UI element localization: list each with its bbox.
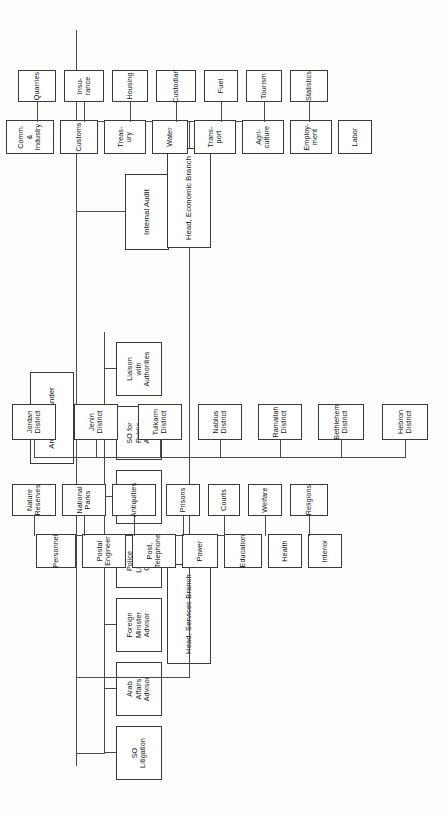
- economic-secondary-box: Housing: [112, 70, 148, 102]
- staff-box: Liaison with Authorities: [116, 342, 162, 396]
- economic-secondary-box: Fuel: [204, 70, 238, 102]
- node-internal-audit: Internal Audit: [125, 174, 169, 250]
- chart-sheet: Area CommanderInternal AuditHead, Servic…: [0, 0, 446, 816]
- staff-box: SO Litigation: [116, 726, 162, 780]
- services-secondary-connector: [84, 516, 85, 536]
- services-primary-box: Personnel: [36, 534, 76, 568]
- services-primary-box: Power: [182, 534, 218, 568]
- district-connector: [220, 440, 221, 458]
- district-box: Ramallah District: [258, 404, 302, 440]
- economic-secondary-connector: [130, 102, 131, 122]
- services-secondary-box: Antiquities: [112, 484, 156, 516]
- economic-secondary-box: Insu- rance: [64, 70, 104, 102]
- branch-riser: [76, 677, 189, 678]
- staff-box: Arab Affairs Advisor: [116, 662, 162, 716]
- economic-primary-box: Agri- culture: [242, 120, 284, 154]
- district-box: Jordan District: [12, 404, 56, 440]
- economic-secondary-connector: [37, 102, 38, 122]
- services-secondary-box: Religions: [290, 484, 328, 516]
- district-connector: [341, 440, 342, 458]
- services-secondary-connector: [134, 516, 135, 536]
- district-box: Bethlehem District: [318, 404, 364, 440]
- staff-box: Foreign Minister Advisor: [116, 598, 162, 652]
- district-connector: [405, 440, 406, 458]
- economic-secondary-box: Tourism: [246, 70, 282, 102]
- economic-secondary-connector: [176, 102, 177, 122]
- node-head-economic-branch: Head, Economic Branch: [167, 148, 211, 248]
- services-primary-box: Education: [224, 534, 262, 568]
- economic-secondary-box: Statistics: [290, 70, 328, 102]
- staff-stem: [104, 752, 116, 753]
- district-connector: [280, 440, 281, 458]
- district-box: Jenin District: [74, 404, 118, 440]
- economic-secondary-connector: [221, 102, 222, 122]
- services-secondary-connector: [309, 516, 310, 536]
- services-secondary-connector: [224, 516, 225, 536]
- services-secondary-box: Prisons: [166, 484, 200, 516]
- services-secondary-box: National Parks: [62, 484, 106, 516]
- district-connector: [96, 440, 97, 458]
- economic-primary-box: Trans- port: [194, 120, 236, 154]
- district-connector: [160, 440, 161, 458]
- services-primary-box: Interior: [308, 534, 342, 568]
- district-box: Tulkarm District: [138, 404, 182, 440]
- internal-audit-stem: [76, 211, 125, 212]
- economic-primary-box: Comm. & Industry: [6, 120, 54, 154]
- district-connector: [34, 440, 35, 458]
- services-secondary-box: Courts: [208, 484, 240, 516]
- rotated-chart-container: Area CommanderInternal AuditHead, Servic…: [0, 0, 446, 816]
- economic-secondary-box: Custodian: [156, 70, 196, 102]
- economic-out: [189, 122, 190, 148]
- org-chart-canvas: Area CommanderInternal AuditHead, Servic…: [0, 0, 446, 816]
- services-secondary-box: Welfare: [248, 484, 282, 516]
- district-box: Hebron District: [382, 404, 428, 440]
- services-secondary-connector: [183, 516, 184, 536]
- economic-primary-box: Employ- ment: [290, 120, 332, 154]
- economic-secondary-box: Quarries: [18, 70, 56, 102]
- staff-stem: [104, 368, 116, 369]
- services-secondary-box: Nature Reserves: [12, 484, 56, 516]
- services-primary-box: Health: [268, 534, 302, 568]
- economic-secondary-connector: [264, 102, 265, 122]
- economic-primary-box: Labor: [338, 120, 372, 154]
- economic-primary-box: Customs: [60, 120, 98, 154]
- branch-economic-link: [189, 248, 190, 678]
- staff-stem: [104, 624, 116, 625]
- staff-trunk-link: [76, 753, 104, 754]
- economic-primary-box: Water: [152, 120, 188, 154]
- district-box: Nablus District: [198, 404, 242, 440]
- services-secondary-connector: [265, 516, 266, 536]
- services-primary-box: Post, Telephone: [132, 534, 176, 568]
- services-secondary-connector: [34, 516, 35, 536]
- economic-primary-box: Treas- ury: [104, 120, 146, 154]
- staff-stem: [104, 688, 116, 689]
- economic-secondary-connector: [84, 102, 85, 122]
- economic-secondary-connector: [309, 102, 310, 122]
- services-primary-box: Postal Engineer: [82, 534, 126, 568]
